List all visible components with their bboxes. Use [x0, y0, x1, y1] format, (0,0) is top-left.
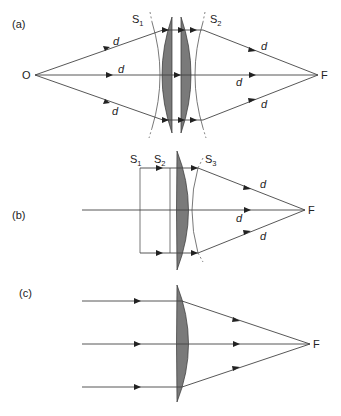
panel-b-label: (b) [12, 209, 25, 221]
path-label-d: d [112, 105, 119, 117]
panel-a-label: (a) [12, 18, 25, 30]
surface-label-s3: S3 [205, 153, 217, 168]
surface-label-s1: S1 [132, 13, 144, 28]
focus-point-label: F [313, 338, 320, 350]
ray-upper [82, 301, 310, 344]
ray-lower [140, 210, 305, 253]
path-label-d: d [261, 98, 268, 110]
focus-point-label: F [308, 204, 315, 216]
path-label-d: d [113, 35, 120, 47]
panel-c: (c) F [19, 285, 320, 402]
path-label-d: d [261, 40, 268, 52]
surface-label-s2: S2 [154, 153, 166, 168]
wavefront-s3 [192, 168, 198, 253]
path-label-d: d [236, 212, 243, 224]
path-label-d: d [260, 178, 267, 190]
focus-point-label: F [321, 69, 328, 81]
ray-upper [35, 30, 318, 75]
optics-diagram: (a) O F S1 S2 [0, 0, 341, 416]
surface-label-s1: S1 [130, 153, 142, 168]
ray-lower [82, 344, 310, 387]
panel-b: (b) F S1 S2 S3 d d d [12, 151, 315, 270]
panel-a: (a) O F S1 S2 [12, 12, 328, 138]
path-label-d: d [236, 76, 243, 88]
lens-plano-convex [177, 151, 189, 270]
ray-upper [140, 168, 305, 210]
path-label-d: d [118, 63, 125, 75]
surface-label-s2: S2 [210, 13, 222, 28]
path-label-d: d [260, 230, 267, 242]
source-point-label: O [22, 69, 31, 81]
panel-c-label: (c) [19, 287, 32, 299]
ray-lower [35, 75, 318, 120]
